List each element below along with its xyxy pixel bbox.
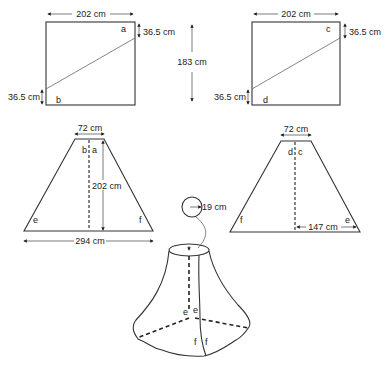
right-square-corner-c: c (326, 24, 331, 34)
height-label: 183 cm (177, 57, 207, 67)
right-square-top-offset-label: 36.5 cm (349, 27, 381, 37)
right-trapezoid-corner-e: e (345, 215, 350, 225)
left-square-bottom-offset-label: 36.5 cm (8, 92, 40, 102)
right-square-panel: 202 cm 36.5 cm 36.5 cm c d (214, 9, 381, 105)
right-trapezoid-label-c: c (298, 147, 303, 157)
left-trapezoid-corner-e: e (33, 215, 38, 225)
sewing-pattern-diagram: 202 cm 36.5 cm 36.5 cm a b 183 cm 202 cm… (0, 0, 388, 367)
base-seam-left (137, 318, 189, 338)
base-seam-right (195, 318, 248, 328)
left-trapezoid-label-b: b (82, 145, 87, 155)
left-square-diagonal (46, 38, 135, 89)
left-trapezoid-corner-f: f (139, 215, 142, 225)
seam-label-e-right: e (193, 305, 198, 315)
left-square-corner-b: b (56, 95, 61, 105)
right-trapezoid-half-label: 147 cm (308, 222, 338, 232)
seam-label-e-left: e (183, 307, 188, 317)
right-square-width-label: 202 cm (281, 9, 311, 19)
right-square-corner-d: d (263, 95, 268, 105)
left-trapezoid-bottom-label: 294 cm (75, 236, 105, 246)
left-square-corner-a: a (121, 24, 126, 34)
opening-leader-line (196, 217, 206, 248)
shape-outline (133, 251, 250, 356)
left-trapezoid-height-label: 202 cm (92, 181, 122, 191)
assembled-volcano-shape: 19 cm e e f f (133, 197, 250, 356)
right-trapezoid-panel: 72 cm 147 cm d c f e (230, 124, 360, 232)
right-square-diagonal (252, 38, 340, 89)
opening-label: 19 cm (202, 202, 227, 212)
right-square-bottom-offset-label: 36.5 cm (214, 92, 246, 102)
seam-label-f-right: f (205, 337, 208, 347)
right-trapezoid-corner-f: f (240, 215, 243, 225)
left-square-panel: 202 cm 36.5 cm 36.5 cm a b (8, 9, 175, 105)
height-dimension: 183 cm (177, 25, 207, 101)
seam-label-f-left: f (194, 337, 197, 347)
right-trapezoid-top-label: 72 cm (284, 124, 309, 134)
left-trapezoid-top-label: 72 cm (78, 123, 103, 133)
left-square-top-offset-label: 36.5 cm (143, 27, 175, 37)
left-trapezoid-label-a: a (92, 145, 97, 155)
left-trapezoid-panel: 72 cm 202 cm 294 cm b a e f (24, 123, 153, 246)
left-square-width-label: 202 cm (76, 9, 106, 19)
right-trapezoid-label-d: d (288, 147, 293, 157)
